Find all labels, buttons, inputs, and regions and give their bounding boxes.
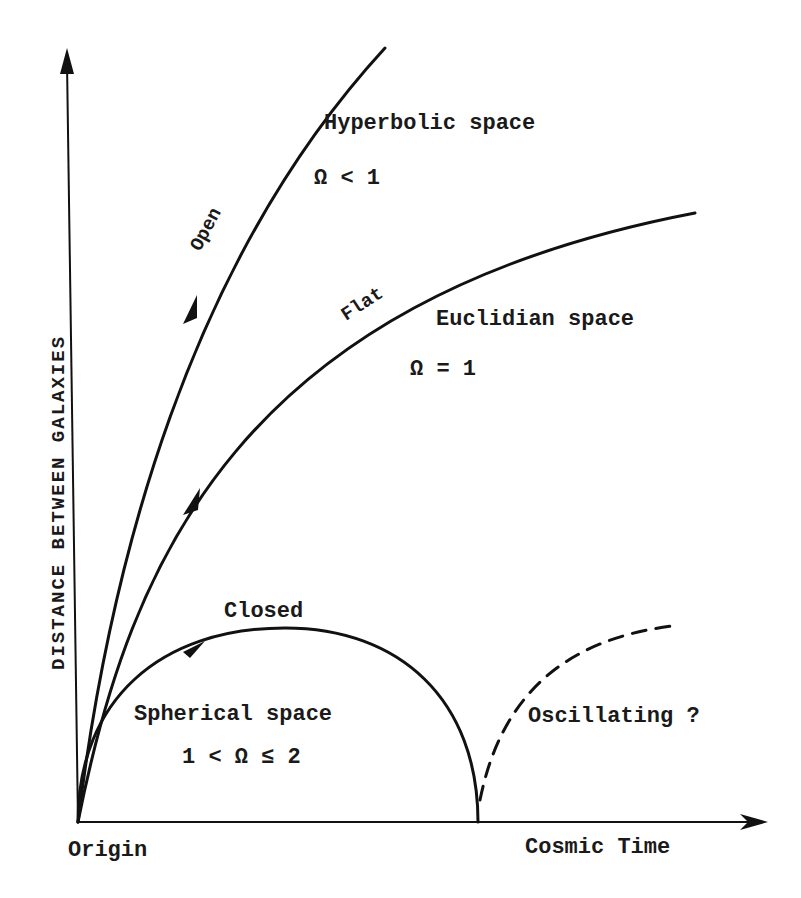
closed-label: Closed [224, 599, 303, 624]
oscillating-label: Oscillating ? [528, 704, 700, 729]
hyperbolic-space-label: Hyperbolic space [324, 111, 535, 136]
spherical-condition-label: 1 < Ω ≤ 2 [182, 745, 301, 770]
flat-curve [78, 213, 695, 822]
flat-direction-arrow-icon [183, 488, 200, 515]
spherical-space-label: Spherical space [134, 702, 332, 727]
universe-models-diagram: DISTANCE BETWEEN GALAXIES Open Hyperboli… [0, 0, 801, 898]
y-axis-arrow-icon [60, 48, 74, 74]
x-axis-label: Cosmic Time [525, 835, 670, 860]
open-label: Open [186, 204, 227, 255]
open-direction-arrow-icon [183, 295, 197, 324]
y-axis-label: DISTANCE BETWEEN GALAXIES [48, 335, 70, 670]
x-axis [78, 814, 768, 830]
origin-label: Origin [68, 838, 147, 863]
flat-label: Flat [337, 283, 387, 326]
hyperbolic-condition-label: Ω < 1 [314, 166, 380, 191]
euclidian-condition-label: Ω = 1 [410, 357, 476, 382]
euclidian-space-label: Euclidian space [436, 307, 634, 332]
